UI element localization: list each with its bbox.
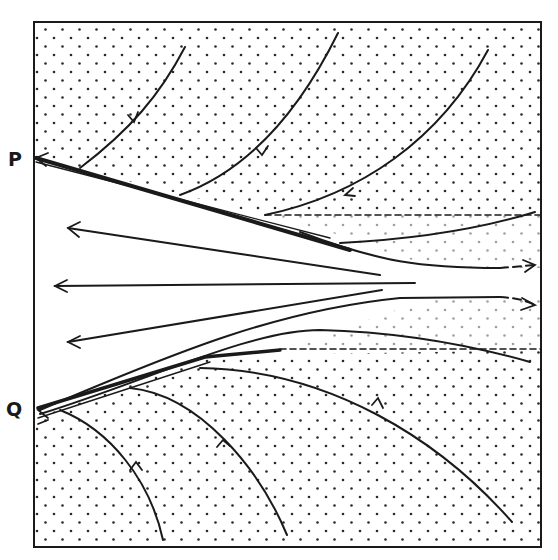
point-label-q: Q	[6, 398, 22, 420]
point-label-p: P	[8, 148, 22, 170]
upper-stippled-region	[34, 22, 541, 215]
lower-sparse-band	[280, 298, 541, 350]
upper-sparse-band	[265, 215, 541, 268]
phase-portrait-diagram	[0, 0, 558, 560]
wedge-ray-upper	[68, 228, 380, 275]
wedge-ray-middle	[55, 283, 415, 286]
